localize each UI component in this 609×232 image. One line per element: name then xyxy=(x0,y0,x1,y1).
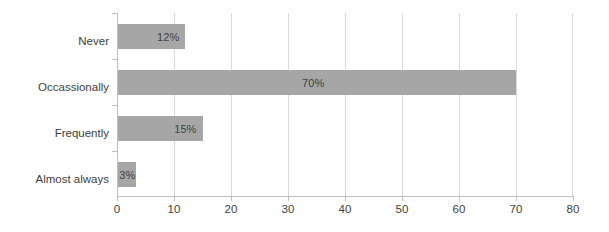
bar-frequently[interactable]: 15% xyxy=(117,116,203,141)
bar-value-never: 12% xyxy=(157,31,179,43)
gridline-40 xyxy=(345,13,346,196)
x-tick-40 xyxy=(345,196,346,201)
y-tick-0 xyxy=(112,13,117,14)
x-tick-label-30: 30 xyxy=(268,203,308,215)
y-tick-2 xyxy=(112,105,117,106)
x-tick-label-60: 60 xyxy=(439,203,479,215)
x-tick-60 xyxy=(459,196,460,201)
gridline-20 xyxy=(231,13,232,196)
y-tick-3 xyxy=(112,151,117,152)
y-axis-line xyxy=(117,13,118,197)
bar-chart: 12% 70% 15% 3% Never Occassionally Frequ… xyxy=(0,0,609,232)
x-tick-label-80: 80 xyxy=(553,203,593,215)
gridline-80 xyxy=(572,13,573,196)
x-tick-50 xyxy=(402,196,403,201)
bar-value-frequently: 15% xyxy=(174,123,196,135)
bar-occassionally[interactable]: 70% xyxy=(117,70,516,95)
gridline-30 xyxy=(288,13,289,196)
bar-almost-always[interactable]: 3% xyxy=(117,162,136,187)
category-label-occassionally: Occassionally xyxy=(0,81,109,93)
x-tick-label-50: 50 xyxy=(382,203,422,215)
x-tick-label-20: 20 xyxy=(211,203,251,215)
x-tick-30 xyxy=(288,196,289,201)
category-label-never: Never xyxy=(0,35,109,47)
x-tick-label-10: 10 xyxy=(154,203,194,215)
gridline-70 xyxy=(516,13,517,196)
gridline-50 xyxy=(402,13,403,196)
x-tick-70 xyxy=(516,196,517,201)
x-tick-20 xyxy=(231,196,232,201)
bar-value-almost-always: 3% xyxy=(119,169,135,181)
plot-area: 12% 70% 15% 3% xyxy=(117,13,573,196)
x-tick-label-0: 0 xyxy=(97,203,137,215)
bar-never[interactable]: 12% xyxy=(117,24,185,49)
x-tick-0 xyxy=(117,196,118,201)
bar-value-occassionally: 70% xyxy=(302,77,324,89)
y-tick-1 xyxy=(112,59,117,60)
x-tick-80 xyxy=(573,196,574,201)
x-tick-10 xyxy=(174,196,175,201)
x-tick-label-70: 70 xyxy=(496,203,536,215)
category-label-almost-always: Almost always xyxy=(0,173,109,185)
gridline-60 xyxy=(459,13,460,196)
category-label-frequently: Frequently xyxy=(0,127,109,139)
x-tick-label-40: 40 xyxy=(325,203,365,215)
